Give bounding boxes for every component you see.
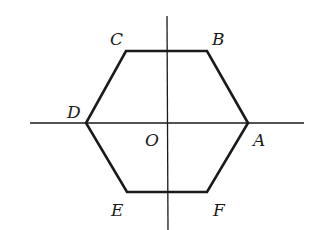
hexagon-diagram: C B D O A E F bbox=[0, 0, 318, 230]
label-b: B bbox=[211, 29, 225, 49]
label-c: C bbox=[110, 29, 123, 49]
y-axis bbox=[167, 16, 168, 230]
label-e: E bbox=[110, 200, 124, 220]
label-f: F bbox=[212, 200, 226, 220]
label-a: A bbox=[251, 130, 265, 150]
label-o: O bbox=[145, 130, 159, 150]
label-d: D bbox=[66, 102, 81, 122]
